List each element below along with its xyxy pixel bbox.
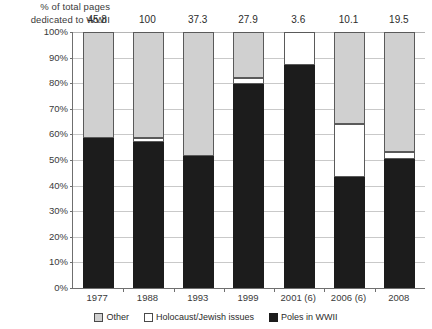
x-axis-tick-label: 1993 — [173, 292, 223, 303]
x-axis-tick-label: 1999 — [223, 292, 273, 303]
bar-segment-poles[interactable] — [233, 84, 264, 288]
bar-segment-holo[interactable] — [233, 78, 264, 84]
stacked-bar[interactable] — [83, 32, 114, 288]
bar-top-label: 100 — [122, 14, 172, 25]
y-axis-tick-label: 50% — [28, 154, 68, 165]
x-axis-tick-label: 2001 (6) — [273, 292, 323, 303]
bar-segment-holo[interactable] — [284, 32, 315, 65]
stacked-bar[interactable] — [233, 32, 264, 288]
legend-swatch-other-icon — [94, 313, 103, 322]
bar-segment-other[interactable] — [183, 32, 214, 156]
y-axis-tick-label: 0% — [28, 282, 68, 293]
legend-swatch-holo-icon — [144, 313, 153, 322]
legend-item-poles[interactable]: Poles in WWII — [269, 312, 338, 322]
y-axis-tick-label: 60% — [28, 128, 68, 139]
bar-top-label: 3.6 — [273, 14, 323, 25]
stacked-bar[interactable] — [284, 32, 315, 288]
legend-label: Other — [106, 312, 129, 322]
bar-slot — [123, 32, 173, 288]
bar-segment-holo[interactable] — [334, 124, 365, 176]
bar-segment-other[interactable] — [133, 32, 164, 138]
bar-segment-other[interactable] — [83, 32, 114, 138]
bar-segment-other[interactable] — [334, 32, 365, 124]
x-axis-tick-label: 2008 — [374, 292, 424, 303]
bar-top-label: 19.5 — [374, 14, 424, 25]
y-axis-tick-label: 70% — [28, 103, 68, 114]
y-axis-tick-label: 80% — [28, 77, 68, 88]
legend-item-other[interactable]: Other — [94, 312, 129, 322]
y-axis-tick-mark — [70, 288, 73, 289]
bar-slot — [324, 32, 374, 288]
bar-slot — [224, 32, 274, 288]
legend-label: Holocaust/Jewish issues — [156, 312, 254, 322]
bar-top-label: 27.9 — [223, 14, 273, 25]
y-axis-tick-label: 40% — [28, 180, 68, 191]
x-axis-tick-labels: 19771988199319992001 (6)2006 (6)2008 — [72, 292, 424, 306]
bar-top-label: 37.3 — [173, 14, 223, 25]
bar-slot — [174, 32, 224, 288]
legend-swatch-poles-icon — [269, 313, 278, 322]
x-axis-tick-label: 1988 — [122, 292, 172, 303]
plot-area — [72, 32, 425, 289]
bar-slot — [274, 32, 324, 288]
y-axis-tick-labels: 100%90%80%70%60%50%40%30%20%10%0% — [24, 32, 68, 288]
bar-segment-other[interactable] — [384, 32, 415, 152]
bar-segment-holo[interactable] — [384, 152, 415, 158]
bar-slot — [73, 32, 123, 288]
y-axis-tick-label: 30% — [28, 205, 68, 216]
chart-legend: OtherHolocaust/Jewish issuesPoles in WWI… — [0, 310, 432, 324]
bar-segment-poles[interactable] — [284, 65, 315, 288]
bar-segment-holo[interactable] — [133, 138, 164, 142]
y-axis-tick-label: 100% — [28, 26, 68, 37]
bar-segment-poles[interactable] — [83, 138, 114, 288]
stacked-bar[interactable] — [133, 32, 164, 288]
y-axis-tick-label: 20% — [28, 231, 68, 242]
stacked-bar-chart: % of total pages dedicated to WWII 100%9… — [0, 0, 432, 329]
bar-segment-poles[interactable] — [384, 159, 415, 288]
bar-top-label: 45.8 — [72, 14, 122, 25]
stacked-bar[interactable] — [384, 32, 415, 288]
bar-slot — [375, 32, 425, 288]
stacked-bar[interactable] — [334, 32, 365, 288]
y-axis-tick-label: 10% — [28, 256, 68, 267]
bar-segment-poles[interactable] — [183, 156, 214, 288]
x-axis-tick-label: 1977 — [72, 292, 122, 303]
legend-item-holo[interactable]: Holocaust/Jewish issues — [144, 312, 254, 322]
bar-segment-poles[interactable] — [133, 142, 164, 288]
bar-segment-other[interactable] — [233, 32, 264, 78]
bar-top-label: 10.1 — [323, 14, 373, 25]
x-axis-tick-label: 2006 (6) — [323, 292, 373, 303]
stacked-bar[interactable] — [183, 32, 214, 288]
legend-label: Poles in WWII — [281, 312, 338, 322]
y-axis-tick-label: 90% — [28, 52, 68, 63]
bar-segment-poles[interactable] — [334, 177, 365, 288]
